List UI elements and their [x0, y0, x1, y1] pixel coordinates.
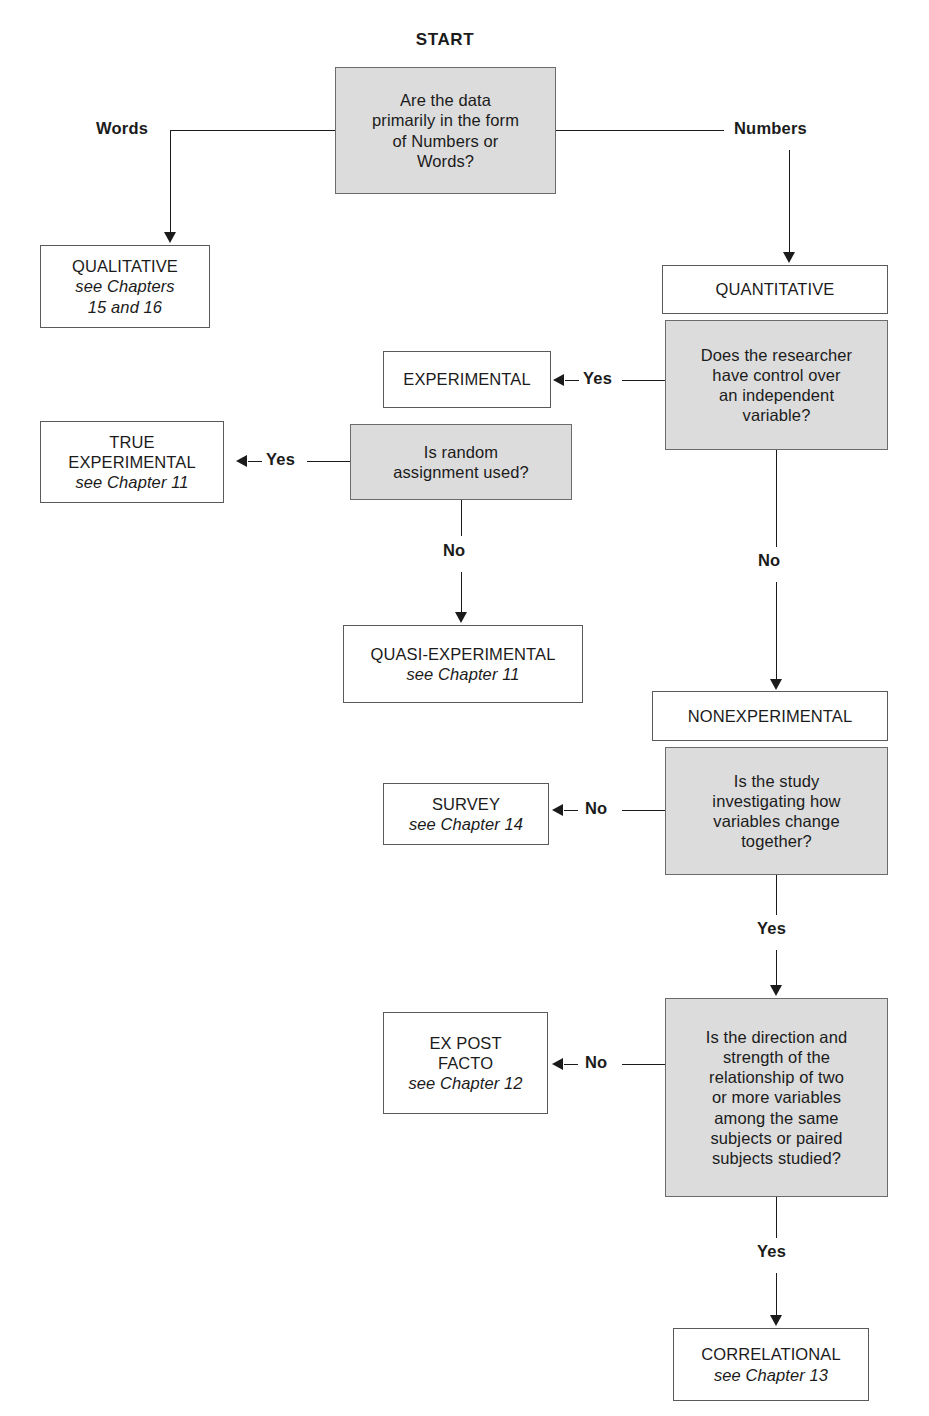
flowchart-canvas: START Are the data primarily in the form…: [0, 0, 929, 1416]
edge-start-to-numbers: [556, 130, 724, 131]
ex-post-facto-chapter: see Chapter 12: [408, 1073, 522, 1093]
edge-direction-no-to-box: [564, 1064, 578, 1065]
direction-question-line-4: or more variables: [712, 1087, 841, 1107]
edge-label-change-no: No: [585, 799, 607, 818]
node-correlational: CORRELATIONAL see Chapter 13: [673, 1328, 869, 1401]
start-question-line-4: Words?: [417, 151, 474, 171]
quasi-experimental-label: QUASI-EXPERIMENTAL: [371, 644, 556, 664]
edge-control-yes-stub: [622, 380, 665, 381]
edge-change-no-stub: [622, 810, 665, 811]
qualitative-chapter-line-1: see Chapters: [75, 276, 174, 296]
arrowhead-to-quasi-experimental: [455, 612, 467, 623]
control-question-line-4: variable?: [743, 405, 811, 425]
arrowhead-to-quantitative: [783, 252, 795, 263]
arrowhead-to-experimental: [553, 374, 564, 386]
qualitative-label: QUALITATIVE: [72, 256, 178, 276]
edge-label-random-no: No: [443, 541, 465, 560]
qualitative-chapter-line-2: 15 and 16: [88, 297, 162, 317]
node-start-question: Are the data primarily in the form of Nu…: [335, 67, 556, 194]
direction-question-line-7: subjects studied?: [712, 1148, 841, 1168]
node-nonexperimental: NONEXPERIMENTAL: [652, 691, 888, 741]
change-question-line-2: investigating how: [712, 791, 840, 811]
direction-question-line-2: strength of the: [723, 1047, 830, 1067]
edge-change-yes-upper: [776, 875, 777, 915]
control-question-line-2: have control over: [712, 365, 840, 385]
node-direction-question: Is the direction and strength of the rel…: [665, 998, 888, 1197]
start-question-line-3: of Numbers or: [393, 131, 499, 151]
start-question-line-2: primarily in the form: [372, 110, 519, 130]
control-question-line-3: an independent: [719, 385, 834, 405]
edge-random-yes-stub: [307, 461, 350, 462]
node-qualitative: QUALITATIVE see Chapters 15 and 16: [40, 245, 210, 328]
start-question-line-1: Are the data: [400, 90, 491, 110]
node-true-experimental: TRUE EXPERIMENTAL see Chapter 11: [40, 421, 224, 503]
arrowhead-to-qualitative: [164, 232, 176, 243]
arrowhead-to-ex-post-facto: [552, 1058, 563, 1070]
edge-control-no-lower: [776, 582, 777, 682]
edge-random-yes-to-box: [248, 461, 262, 462]
direction-question-line-3: relationship of two: [709, 1067, 844, 1087]
change-question-line-4: together?: [741, 831, 812, 851]
edge-direction-no-stub: [622, 1064, 665, 1065]
edge-label-direction-yes: Yes: [757, 1242, 786, 1261]
edge-label-change-yes: Yes: [757, 919, 786, 938]
edge-change-no-to-box: [564, 810, 578, 811]
edge-control-no-upper: [776, 450, 777, 547]
edge-numbers-vertical: [789, 150, 790, 255]
true-experimental-line-1: TRUE: [109, 432, 154, 452]
survey-label: SURVEY: [432, 794, 500, 814]
correlational-label: CORRELATIONAL: [701, 1344, 840, 1364]
node-ex-post-facto: EX POST FACTO see Chapter 12: [383, 1012, 548, 1114]
arrowhead-to-nonexperimental: [770, 679, 782, 690]
edge-direction-yes-upper: [776, 1197, 777, 1238]
random-question-line-1: Is random: [424, 442, 498, 462]
arrowhead-to-survey: [552, 804, 563, 816]
edge-change-yes-lower: [776, 950, 777, 988]
node-survey: SURVEY see Chapter 14: [383, 783, 549, 845]
node-change-question: Is the study investigating how variables…: [665, 747, 888, 875]
edge-direction-yes-lower: [776, 1273, 777, 1318]
edge-random-no-upper: [461, 500, 462, 536]
change-question-line-3: variables change: [713, 811, 839, 831]
edge-words-vertical: [170, 130, 171, 235]
edge-random-no-lower: [461, 572, 462, 615]
ex-post-facto-line-1: EX POST: [429, 1033, 501, 1053]
direction-question-line-5: among the same: [714, 1108, 838, 1128]
change-question-line-1: Is the study: [734, 771, 820, 791]
random-question-line-2: assignment used?: [393, 462, 529, 482]
arrowhead-to-true-experimental: [236, 455, 247, 467]
experimental-label: EXPERIMENTAL: [403, 369, 530, 389]
edge-start-to-words: [170, 130, 335, 131]
edge-label-random-yes: Yes: [266, 450, 295, 469]
arrowhead-to-direction-question: [770, 985, 782, 996]
direction-question-line-1: Is the direction and: [706, 1027, 847, 1047]
survey-chapter: see Chapter 14: [409, 814, 523, 834]
edge-control-yes-to-box: [565, 380, 579, 381]
node-random-question: Is random assignment used?: [350, 424, 572, 500]
quasi-experimental-chapter: see Chapter 11: [406, 664, 519, 684]
control-question-line-1: Does the researcher: [701, 345, 852, 365]
direction-question-line-6: subjects or paired: [710, 1128, 842, 1148]
edge-label-control-yes: Yes: [583, 369, 612, 388]
edge-label-numbers: Numbers: [734, 119, 807, 138]
node-quasi-experimental: QUASI-EXPERIMENTAL see Chapter 11: [343, 625, 583, 703]
edge-label-control-no: No: [758, 551, 780, 570]
arrowhead-to-correlational: [770, 1315, 782, 1326]
true-experimental-chapter: see Chapter 11: [75, 472, 188, 492]
start-heading: START: [335, 30, 555, 50]
edge-label-words: Words: [96, 119, 148, 138]
true-experimental-line-2: EXPERIMENTAL: [68, 452, 195, 472]
node-quantitative: QUANTITATIVE: [662, 265, 888, 314]
quantitative-label: QUANTITATIVE: [716, 279, 835, 299]
node-control-question: Does the researcher have control over an…: [665, 320, 888, 450]
edge-label-direction-no: No: [585, 1053, 607, 1072]
node-experimental: EXPERIMENTAL: [383, 351, 551, 408]
ex-post-facto-line-2: FACTO: [438, 1053, 493, 1073]
nonexperimental-label: NONEXPERIMENTAL: [688, 706, 852, 726]
correlational-chapter: see Chapter 13: [714, 1365, 828, 1385]
